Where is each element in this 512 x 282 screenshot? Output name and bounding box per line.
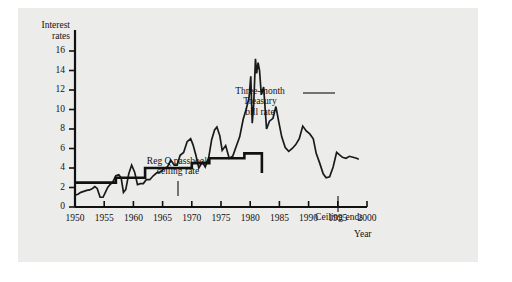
reg-q-annotation: Reg Q passbook ceiling rate <box>122 156 234 177</box>
x-tick-label: 1965 <box>147 213 179 223</box>
y-tick-label: 2 <box>27 182 65 192</box>
x-tick-label: 1975 <box>205 213 237 223</box>
y-tick-label: 4 <box>27 162 65 172</box>
x-tick-label: 1955 <box>88 213 120 223</box>
x-tick-label: 1995 <box>322 213 354 223</box>
treasury-bill-annotation-line1: Three-month <box>218 86 302 96</box>
reg-q-annotation-line2: ceiling rate <box>122 166 234 176</box>
chart-plot-area <box>18 8 478 262</box>
x-tick-label: 1985 <box>263 213 295 223</box>
x-tick-label: 1980 <box>234 213 266 223</box>
y-tick-label: 6 <box>27 143 65 153</box>
x-tick-label: 2000 <box>351 213 383 223</box>
treasury-bill-annotation: Three-month Treasury bill rate <box>218 86 302 117</box>
y-axis-title-line1: Interest <box>6 20 70 30</box>
x-axis-title: Year <box>354 229 372 239</box>
reg-q-annotation-line1: Reg Q passbook <box>122 156 234 166</box>
treasury-bill-annotation-line3: bill rate <box>218 107 302 117</box>
y-tick-label: 14 <box>27 65 65 75</box>
y-tick-label: 12 <box>27 84 65 94</box>
x-tick-label: 1970 <box>176 213 208 223</box>
x-tick-label: 1950 <box>59 213 91 223</box>
y-axis-title-line2: rates <box>6 31 70 41</box>
chart-figure: Interest rates Year Three-month Treasury… <box>18 8 478 262</box>
treasury-bill-annotation-line2: Treasury <box>218 96 302 106</box>
x-tick-label: 1960 <box>117 213 149 223</box>
y-tick-label: 16 <box>27 45 65 55</box>
x-tick-label: 1990 <box>293 213 325 223</box>
y-tick-label: 0 <box>27 201 65 211</box>
y-tick-label: 8 <box>27 123 65 133</box>
y-tick-label: 10 <box>27 104 65 114</box>
